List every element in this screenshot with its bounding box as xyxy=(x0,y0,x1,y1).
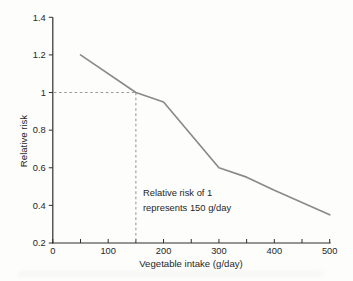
y-tick-label: 0.8 xyxy=(33,125,46,135)
x-tick-label: 400 xyxy=(267,246,283,256)
line-chart: 01002003004005000.20.40.60.811.21.4 Rela… xyxy=(0,0,353,281)
y-tick-label: 0.4 xyxy=(33,201,46,211)
y-tick-label: 1.2 xyxy=(33,50,46,60)
y-tick-label: 1 xyxy=(41,88,46,98)
y-axis-title: Relative risk xyxy=(18,115,29,167)
figure-relative-risk-chart: 01002003004005000.20.40.60.811.21.4 Rela… xyxy=(0,0,353,281)
x-tick-label: 500 xyxy=(322,246,338,256)
x-tick-label: 300 xyxy=(211,246,227,256)
annotation-line-1: Relative risk of 1 xyxy=(143,187,212,198)
annotation-line-2: represents 150 g/day xyxy=(143,202,231,213)
x-tick-label: 0 xyxy=(50,246,55,256)
dashed-reference-lines xyxy=(54,93,136,242)
x-tick-label: 200 xyxy=(156,246,172,256)
y-tick-label: 0.2 xyxy=(33,238,46,248)
tick-labels: 01002003004005000.20.40.60.811.21.4 xyxy=(33,13,338,256)
y-tick-label: 1.4 xyxy=(33,13,46,23)
x-axis-title: Vegetable intake (g/day) xyxy=(139,258,242,269)
y-tick-label: 0.6 xyxy=(33,163,46,173)
x-tick-label: 100 xyxy=(100,246,116,256)
